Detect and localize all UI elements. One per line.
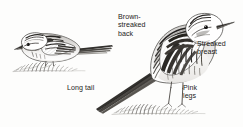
label-brown-streaked-back: Brown- streaked back: [118, 13, 146, 38]
label-streaked-breast: Streaked breast: [197, 40, 226, 57]
label-pink-legs: Pink legs: [183, 84, 197, 101]
label-long-tail: Long tail: [67, 84, 94, 92]
